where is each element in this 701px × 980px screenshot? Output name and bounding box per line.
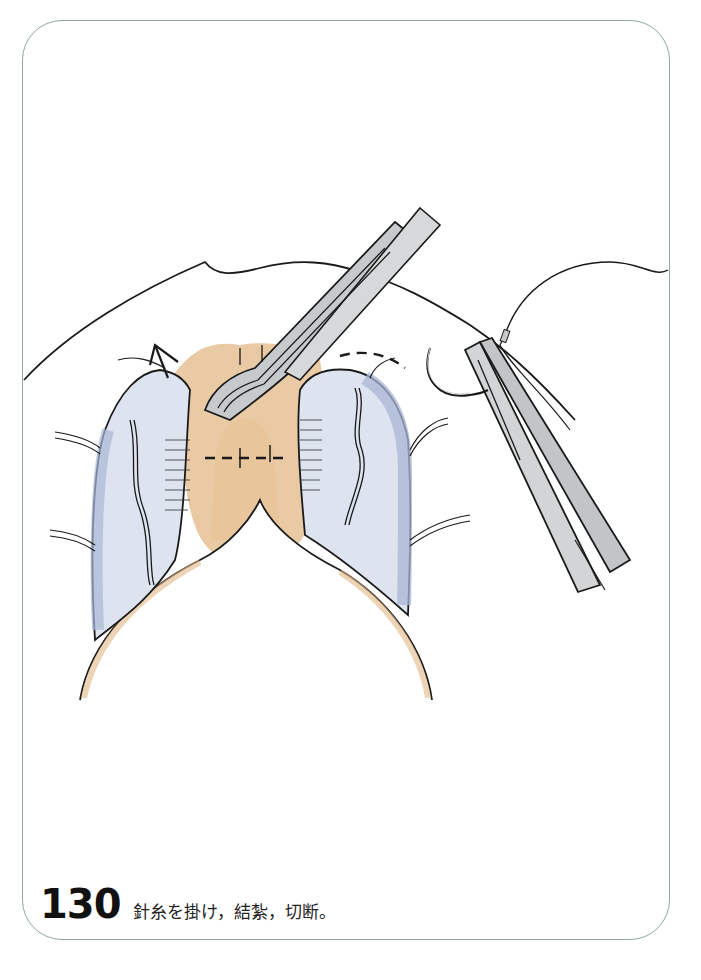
surgical-illustration	[0, 0, 701, 980]
figure-caption: 130 針糸を掛け，結紮，切断。	[40, 884, 336, 924]
figure-caption-text: 針糸を掛け，結紮，切断。	[133, 904, 336, 921]
figure-number: 130	[40, 884, 121, 924]
thread-right	[505, 262, 668, 335]
needle-holder	[465, 338, 630, 592]
